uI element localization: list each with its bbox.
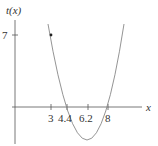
y-axis-label: t(x) [6,4,22,17]
y-tick-label-7: 7 [2,29,8,41]
function-graph: t(x) 7 x 3 4.4 6.2 8 [0,0,158,146]
x-tick-label-6-2: 6.2 [79,112,93,124]
x-tick-label-3: 3 [48,112,54,124]
x-tick-label-4-4: 4.4 [58,112,72,124]
x-axis-label: x [145,101,151,113]
point-3-7 [50,34,53,37]
x-tick-label-8: 8 [105,112,111,124]
